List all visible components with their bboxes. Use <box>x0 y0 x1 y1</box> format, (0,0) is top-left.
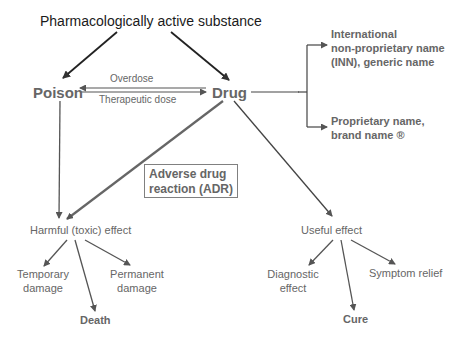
diagnostic-line-1: Diagnostic <box>267 267 318 281</box>
adr-line-2: reaction (ADR) <box>149 182 233 197</box>
inn-line-2: non-proprietary name <box>331 41 445 55</box>
cure-node: Cure <box>343 313 368 326</box>
temporary-line-2: damage <box>17 281 69 295</box>
diagnostic-effect-node: Diagnostic effect <box>267 267 318 295</box>
pharmacology-diagram: Pharmacologically active substance Poiso… <box>0 0 464 342</box>
death-node: Death <box>80 314 111 327</box>
temporary-line-1: Temporary <box>17 267 69 281</box>
permanent-line-2: damage <box>110 281 164 295</box>
inn-line-3: (INN), generic name <box>331 55 445 69</box>
permanent-line-1: Permanent <box>110 267 164 281</box>
inn-line-1: International <box>331 27 445 41</box>
brand-line-2: brand name ® <box>331 128 425 142</box>
inn-node: International non-proprietary name (INN)… <box>331 27 445 69</box>
useful-effect-node: Useful effect <box>301 224 362 237</box>
symptom-relief-node: Symptom relief <box>369 267 442 280</box>
temporary-damage-node: Temporary damage <box>17 267 69 295</box>
therapeutic-dose-label: Therapeutic dose <box>99 94 176 106</box>
brand-line-1: Proprietary name, <box>331 114 425 128</box>
brand-name-node: Proprietary name, brand name ® <box>331 114 425 142</box>
drug-node: Drug <box>212 84 247 101</box>
poison-node: Poison <box>33 84 83 101</box>
permanent-damage-node: Permanent damage <box>110 267 164 295</box>
harmful-effect-node: Harmful (toxic) effect <box>30 224 131 237</box>
overdose-label: Overdose <box>110 73 153 85</box>
root-node: Pharmacologically active substance <box>40 13 262 29</box>
adr-line-1: Adverse drug <box>149 167 233 182</box>
diagnostic-line-2: effect <box>267 281 318 295</box>
adr-box: Adverse drug reaction (ADR) <box>144 164 238 198</box>
